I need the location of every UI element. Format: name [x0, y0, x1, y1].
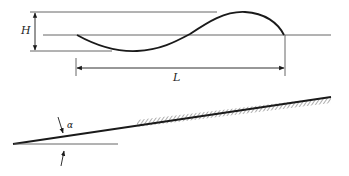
height-label: H [20, 24, 31, 37]
wave-slope-diagram: H L α [0, 0, 349, 176]
angle-label: α [67, 120, 73, 130]
sloping-bed-line [13, 97, 331, 144]
wave-profile [77, 12, 284, 51]
slope-panel: α [13, 97, 331, 166]
length-label: L [172, 71, 180, 84]
wave-panel: H L [20, 12, 331, 84]
angle-arrow-top [58, 117, 63, 133]
angle-arrow-bottom [61, 151, 64, 166]
